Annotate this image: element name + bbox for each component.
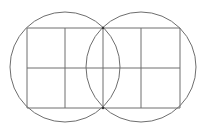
intersection-point-0	[102, 27, 104, 29]
two-circles-grid-diagram	[0, 0, 206, 133]
intersection-point-1	[102, 107, 104, 109]
